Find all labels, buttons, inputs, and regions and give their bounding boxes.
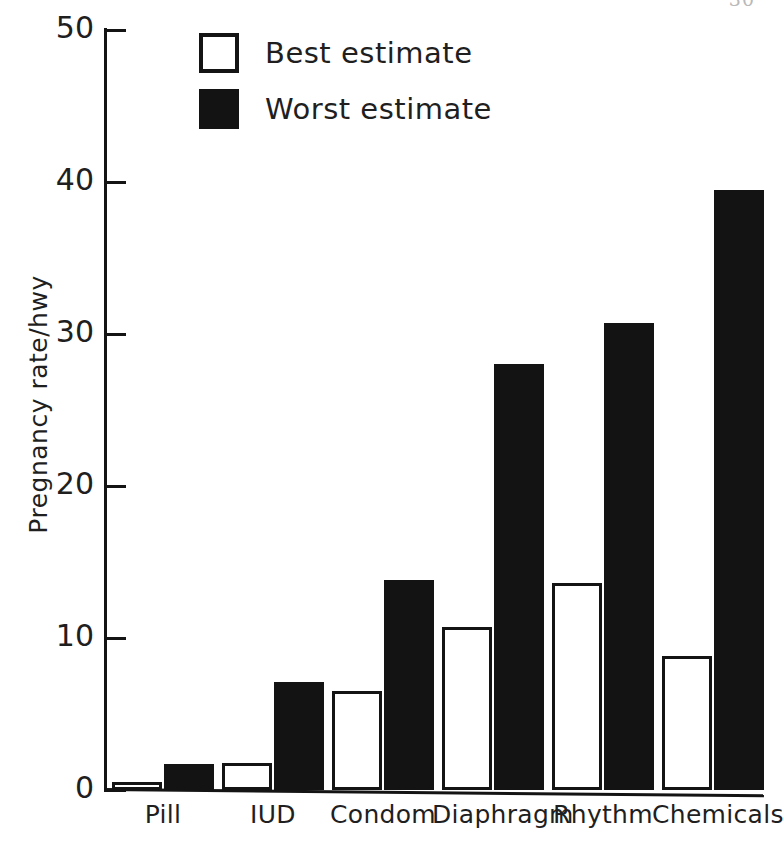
plot-area — [104, 28, 769, 790]
x-axis-label-chemicals: Chemicals — [652, 800, 774, 829]
legend-label-best-estimate: Best estimate — [265, 36, 473, 70]
bar-condom-worst-estimate — [384, 580, 434, 790]
y-axis-tick-label: 40 — [24, 165, 94, 195]
y-axis-tick-label: 50 — [24, 13, 94, 43]
y-axis-label: Pregnancy rate/hwy — [24, 255, 53, 555]
y-axis-tick-label: 0 — [24, 773, 94, 803]
filled-square-icon — [199, 89, 239, 129]
bar-rhythm-best-estimate — [552, 583, 602, 790]
x-axis-label-pill: Pill — [102, 800, 224, 829]
bar-iud-best-estimate — [222, 763, 272, 790]
y-axis-tick-label: 20 — [24, 469, 94, 499]
bar-pill-best-estimate — [112, 782, 162, 790]
bar-diaphragm-best-estimate — [442, 627, 492, 790]
y-axis-tick-label: 10 — [24, 621, 94, 651]
bar-chemicals-worst-estimate — [714, 190, 764, 790]
chart-legend: Best estimate Worst estimate — [199, 25, 492, 137]
open-square-icon — [199, 33, 239, 73]
bar-iud-worst-estimate — [274, 682, 324, 790]
legend-item-worst-estimate: Worst estimate — [199, 81, 492, 137]
bar-condom-best-estimate — [332, 691, 382, 790]
bar-chemicals-best-estimate — [662, 656, 712, 790]
legend-label-worst-estimate: Worst estimate — [265, 92, 492, 126]
page-number-artifact: 30 — [729, 0, 755, 10]
bar-rhythm-worst-estimate — [604, 323, 654, 790]
bar-pill-worst-estimate — [164, 764, 214, 790]
y-axis-tick-label: 30 — [24, 317, 94, 347]
x-axis-label-condom: Condom — [322, 800, 444, 829]
legend-item-best-estimate: Best estimate — [199, 25, 492, 81]
x-axis-label-diaphragm: Diaphragm — [432, 800, 554, 829]
x-axis-label-rhythm: Rhythm — [542, 800, 664, 829]
x-axis-label-iud: IUD — [212, 800, 334, 829]
bar-diaphragm-worst-estimate — [494, 364, 544, 790]
